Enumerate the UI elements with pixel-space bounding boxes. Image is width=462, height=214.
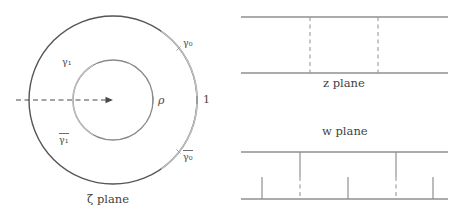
radial-axis-arrowhead [106, 97, 114, 103]
caption-zeta-plane: ζ plane [87, 194, 129, 206]
label-gamma-1-bar: γ₁ [59, 133, 69, 144]
label-gamma-0: γ₀ [183, 38, 193, 48]
label-one: 1 [203, 94, 210, 105]
caption-z-plane: z plane [323, 78, 365, 90]
label-gamma-0-bar-text: γ₀ [183, 150, 193, 161]
label-gamma-1: γ₁ [62, 57, 72, 67]
label-rho: ρ [158, 95, 164, 106]
diagram-vector-layer [0, 0, 462, 214]
outer-circle-light-arc [162, 32, 197, 169]
figure-canvas: γ₀ γ₀ γ₁ γ₁ ρ 1 ζ plane z plane w plane [0, 0, 462, 214]
caption-w-plane: w plane [322, 126, 368, 138]
label-gamma-1-bar-text: γ₁ [59, 133, 69, 144]
label-gamma-0-bar: γ₀ [183, 150, 193, 161]
